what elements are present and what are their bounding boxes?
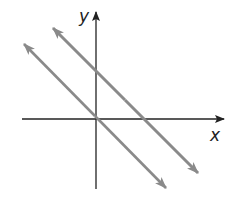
y-axis-label: y	[78, 6, 90, 26]
x-axis-label: x	[209, 125, 221, 145]
line-upper-lower-half	[125, 100, 198, 173]
coordinate-graph: y x	[0, 0, 241, 197]
line-upper	[53, 28, 125, 100]
line-through-origin-lower-half	[95, 116, 166, 188]
line-through-origin	[24, 44, 95, 116]
